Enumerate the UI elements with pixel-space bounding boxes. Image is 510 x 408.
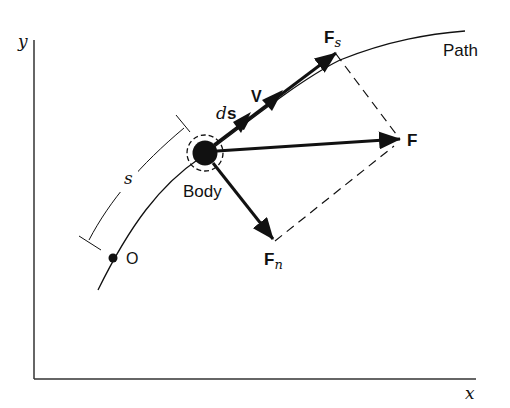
fs-label-sub: s — [334, 35, 341, 50]
vector-fn — [213, 163, 273, 239]
origin-point — [109, 254, 118, 263]
fs-label: Fs — [324, 29, 341, 46]
dashed-fs-to-f — [336, 54, 399, 138]
fn-label: Fn — [264, 251, 283, 268]
fn-label-main: F — [264, 250, 274, 269]
velocity-label: V — [251, 89, 262, 105]
body-label: Body — [183, 183, 222, 200]
ds-label-d: d — [216, 103, 227, 123]
dashed-fn-to-f — [275, 146, 394, 241]
path-label: Path — [443, 42, 478, 59]
fn-label-sub: n — [274, 257, 282, 272]
force-label: F — [407, 132, 417, 149]
ds-label-s: s — [227, 104, 236, 123]
force-path-diagram — [0, 0, 510, 408]
fs-label-main: F — [324, 28, 334, 47]
ds-label: ds — [216, 105, 236, 122]
origin-label: O — [126, 251, 138, 267]
vector-f — [217, 139, 400, 151]
y-axis-label: y — [18, 33, 28, 50]
arc-length-label: s — [124, 170, 133, 187]
x-axis-label: x — [465, 385, 475, 402]
